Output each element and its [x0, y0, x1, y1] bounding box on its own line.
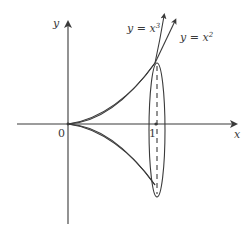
tick-label-x1: 1 [149, 128, 156, 139]
curve-label-x-squared-text: y = x [180, 31, 209, 44]
curve-x-cubed-upper [68, 63, 155, 124]
curve-label-x-cubed-exponent: 3 [156, 22, 160, 30]
curve-x-squared-lower [68, 124, 155, 185]
curve-label-x-squared-exponent: 2 [209, 31, 213, 39]
curve-label-x-cubed: y = x3 [127, 23, 160, 34]
curve-label-x-squared: y = x2 [180, 32, 213, 43]
upper-shaded-region [68, 63, 155, 124]
tick-point-x1 [154, 122, 157, 125]
curve-x-squared-upper [68, 63, 155, 124]
x-axis-label: x [234, 129, 240, 140]
curve-label-x-cubed-text: y = x [127, 22, 156, 35]
lower-shaded-region [68, 124, 155, 185]
origin-label: 0 [58, 128, 65, 139]
origin-point [67, 123, 70, 126]
curve-x-cubed-lower [68, 124, 155, 185]
y-axis-label: y [53, 18, 59, 29]
